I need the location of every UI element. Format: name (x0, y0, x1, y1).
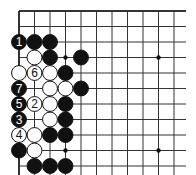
white-stone-6: 6 (27, 66, 42, 81)
white-stone-4: 4 (12, 128, 27, 143)
hoshi-point (63, 55, 67, 59)
move-number: 6 (31, 66, 38, 80)
black-stone (58, 66, 73, 81)
move-number: 2 (31, 97, 38, 111)
black-stone (43, 128, 58, 143)
hoshi-point (156, 55, 160, 59)
move-number: 5 (16, 97, 23, 111)
white-stone (27, 143, 42, 158)
black-stone (58, 159, 73, 174)
black-stone (27, 159, 42, 174)
white-stone (58, 81, 73, 96)
white-stone (43, 97, 58, 112)
hoshi-point (156, 148, 160, 152)
black-stone (58, 97, 73, 112)
hoshi-point (63, 148, 67, 152)
black-stone (58, 112, 73, 127)
black-stone (43, 50, 58, 65)
white-stone (27, 128, 42, 143)
black-stone (58, 128, 73, 143)
white-stone (43, 112, 58, 127)
move-number: 7 (16, 82, 23, 96)
black-stone (27, 35, 42, 50)
black-stone (12, 143, 27, 158)
move-number: 1 (16, 35, 23, 49)
black-stone (74, 81, 89, 96)
white-stone-2: 2 (27, 97, 42, 112)
black-stone (43, 35, 58, 50)
black-stone-1: 1 (12, 35, 27, 50)
move-number: 4 (16, 128, 23, 142)
white-stone (27, 50, 42, 65)
black-stone-5: 5 (12, 97, 27, 112)
black-stone-3: 3 (12, 112, 27, 127)
white-stone (43, 66, 58, 81)
go-board-diagram: 1675234 (0, 0, 196, 175)
black-stone-7: 7 (12, 81, 27, 96)
white-stone (43, 81, 58, 96)
move-number: 3 (16, 113, 23, 127)
white-stone (12, 66, 27, 81)
black-stone (74, 50, 89, 65)
black-stone (43, 159, 58, 174)
